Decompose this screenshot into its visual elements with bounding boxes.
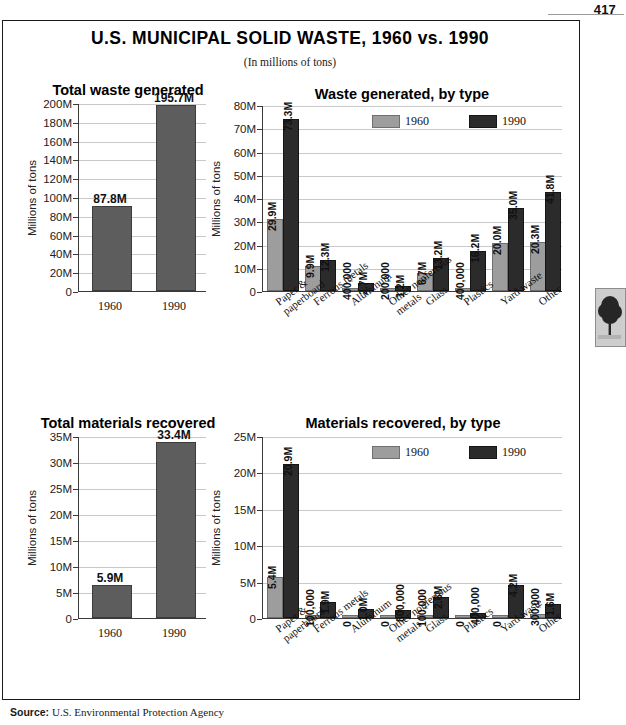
tick-mark (257, 473, 262, 474)
legend-label-1990: 1990 (502, 445, 526, 460)
tick-mark (257, 222, 262, 223)
gridline (263, 510, 562, 511)
bar-value-label: 16.2M (469, 234, 481, 263)
chart-legend: 19601990 (372, 114, 526, 129)
x-category-label: 1990 (139, 299, 209, 314)
tick-mark (73, 292, 78, 293)
y-tick-label: 40M (28, 248, 72, 260)
y-tick-label: 80M (28, 211, 72, 223)
gridline (263, 153, 562, 154)
source-label: Source: (10, 706, 49, 718)
bar-value-label: 20.3M (529, 225, 541, 254)
tick-mark (73, 437, 78, 438)
y-tick-label: 10M (28, 561, 72, 573)
bar-value-label: 5.9M (70, 571, 150, 585)
tick-mark (73, 541, 78, 542)
tick-mark (73, 104, 78, 105)
y-tick-label: 25M (212, 431, 256, 443)
bar-value-label: 6.7M (416, 262, 428, 285)
y-tick-label: 15M (212, 504, 256, 516)
legend-swatch-1960 (372, 115, 400, 128)
legend-label-1960: 1960 (405, 445, 429, 460)
bar-value-label: 100,000 (304, 589, 316, 627)
bar-value-label: 2.6M (432, 586, 444, 609)
bar (92, 206, 132, 291)
y-tick-label: 20M (28, 509, 72, 521)
bar (508, 208, 524, 291)
y-tick-label: 20M (212, 240, 256, 252)
y-tick-label: 5M (212, 577, 256, 589)
bar-value-label: 400,000 (341, 262, 353, 300)
bar-value-label: 4.2M (507, 574, 519, 597)
tick-mark (73, 567, 78, 568)
y-tick-label: 50M (212, 170, 256, 182)
bar (156, 442, 196, 618)
bar-value-label: 20.0M (491, 225, 503, 254)
bar (545, 192, 561, 291)
y-tick-label: 160M (28, 136, 72, 148)
chart-legend: 19601990 (372, 445, 526, 460)
gridline (263, 546, 562, 547)
chart-title-materials-recovered-by-type: Materials recovered, by type (268, 415, 538, 431)
bar-value-label: 13.2M (432, 241, 444, 270)
source-text: U.S. Environmental Protection Agency (52, 706, 224, 718)
y-tick-label: 0 (212, 613, 256, 625)
bar-value-label: 195.7M (134, 91, 214, 105)
tick-mark (257, 153, 262, 154)
y-tick-label: 140M (28, 154, 72, 166)
bar (492, 615, 508, 619)
bar-value-label: 9.9M (304, 255, 316, 278)
tick-mark (257, 437, 262, 438)
x-category-label: 1960 (75, 626, 145, 641)
y-tick-label: 0 (28, 613, 72, 625)
y-tick-label: 120M (28, 173, 72, 185)
tick-mark (257, 583, 262, 584)
bar (156, 105, 196, 291)
bar-value-label: 200,000 (379, 262, 391, 300)
gridline (263, 129, 562, 130)
tick-mark (73, 593, 78, 594)
bar-value-label: 20.9M (282, 447, 294, 476)
legend-label-1960: 1960 (405, 114, 429, 129)
y-tick-label: 70M (212, 123, 256, 135)
bar-value-label: 73.3M (282, 101, 294, 130)
legend-item-1990: 1990 (469, 445, 526, 460)
y-tick-label: 200M (28, 98, 72, 110)
legend-swatch-1990 (469, 446, 497, 459)
y-tick-label: 40M (212, 193, 256, 205)
y-tick-label: 15M (28, 535, 72, 547)
gridline (263, 437, 562, 438)
bar (92, 585, 132, 618)
y-tick-label: 20M (28, 267, 72, 279)
y-tick-label: 35M (28, 431, 72, 443)
tick-mark (73, 236, 78, 237)
y-tick-label: 60M (28, 230, 72, 242)
y-tick-label: 180M (28, 117, 72, 129)
legend-item-1960: 1960 (372, 445, 429, 460)
y-tick-label: 100M (28, 192, 72, 204)
gridline (263, 106, 562, 107)
page-number: 417 (594, 2, 616, 17)
y-axis-label-materials-recovered-by-type: Millions of tons (210, 437, 222, 619)
y-tick-label: 30M (212, 216, 256, 228)
tick-mark (73, 254, 78, 255)
x-category-label: 1990 (139, 626, 209, 641)
x-category-label: 1960 (75, 299, 145, 314)
tick-mark (73, 515, 78, 516)
tick-mark (257, 619, 262, 620)
tick-mark (73, 489, 78, 490)
page-title: U.S. MUNICIPAL SOLID WASTE, 1960 vs. 199… (0, 28, 580, 49)
y-tick-label: 10M (212, 263, 256, 275)
tick-mark (257, 176, 262, 177)
bar-value-label: 33.4M (134, 428, 214, 442)
bar-value-label: 41.8M (544, 175, 556, 204)
gridline (263, 176, 562, 177)
y-tick-label: 20M (212, 467, 256, 479)
y-tick-label: 60M (212, 147, 256, 159)
tick-mark (257, 292, 262, 293)
bar-value-label: 12.3M (319, 243, 331, 272)
bar-value-label: 29.9M (266, 202, 278, 231)
page-subtitle: (In millions of tons) (0, 56, 580, 68)
tick-mark (257, 546, 262, 547)
tick-mark (73, 273, 78, 274)
